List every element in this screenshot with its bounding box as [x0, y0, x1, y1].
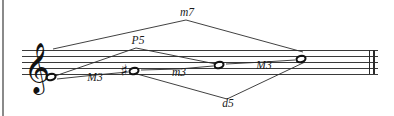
music-notation-canvas: 𝄞 ♯ M3m3M3P5m7d5: [0, 0, 394, 116]
label-interval-M3-right: M3: [255, 59, 272, 71]
label-interval-m7: m7: [180, 6, 195, 18]
staff-lines: [22, 50, 378, 74]
accidentals-group: ♯: [120, 61, 128, 80]
label-interval-m3-middle: m3: [172, 66, 186, 78]
connector-interval-m7: [53, 20, 303, 52]
treble-clef-icon: 𝄞: [24, 41, 50, 95]
label-interval-d5: d5: [222, 97, 234, 109]
sharp-icon: ♯: [120, 61, 128, 80]
label-interval-m3-low-left: M3: [86, 71, 103, 83]
interval-diagram-figure: 𝄞 ♯ M3m3M3P5m7d5: [0, 0, 394, 116]
label-interval-P5: P5: [131, 34, 145, 46]
